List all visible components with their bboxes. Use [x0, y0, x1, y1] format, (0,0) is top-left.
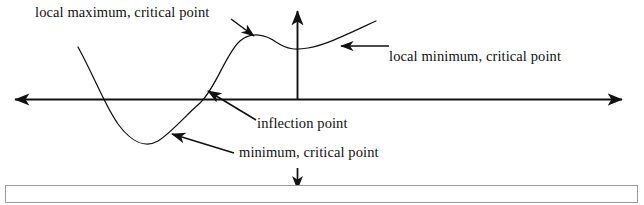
local-maximum-arrow-icon [231, 19, 254, 36]
minimum-arrow-icon [172, 134, 234, 153]
annotation-local-minimum: local minimum, critical point [389, 48, 561, 64]
annotation-minimum: minimum, critical point [239, 144, 379, 160]
caption-box [5, 185, 638, 203]
graph-canvas [0, 0, 644, 205]
graph-figure: local maximum, critical point local mini… [0, 0, 644, 205]
annotation-local-maximum: local maximum, critical point [35, 4, 209, 20]
inflection-point-arrow-icon [208, 91, 256, 120]
annotation-inflection-point: inflection point [257, 115, 348, 131]
